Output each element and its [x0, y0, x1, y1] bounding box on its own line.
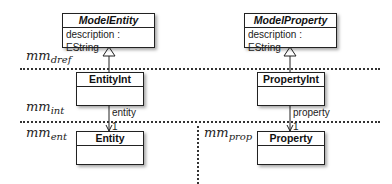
class-property[interactable]: Property	[257, 131, 325, 165]
role-label-entity: entity	[112, 107, 136, 118]
class-entity[interactable]: Entity	[76, 131, 144, 165]
multiplicity-entity: 1	[112, 121, 118, 132]
class-attribute: description : EString	[245, 28, 336, 54]
class-name: EntityInt	[77, 73, 143, 87]
class-name: PropertyInt	[258, 73, 324, 87]
class-name: Property	[258, 132, 324, 146]
class-name: ModelEntity	[63, 14, 154, 28]
layer-separator-int-ent	[20, 121, 380, 123]
class-attribute: description : EString	[63, 28, 154, 54]
class-name: Entity	[77, 132, 143, 146]
class-model-entity[interactable]: ModelEntity description : EString	[62, 13, 155, 48]
class-name: ModelProperty	[245, 14, 336, 28]
layer-separator-dref-int	[20, 68, 380, 70]
layer-label-ent: mment	[26, 125, 67, 142]
class-property-int[interactable]: PropertyInt	[257, 72, 325, 106]
role-label-property: property	[293, 107, 330, 118]
class-model-property[interactable]: ModelProperty description : EString	[244, 13, 337, 48]
layer-label-int: mmint	[26, 99, 64, 116]
layer-label-prop: mmprop	[204, 125, 252, 142]
multiplicity-property: 1	[293, 121, 299, 132]
layer-separator-ent-prop	[197, 126, 199, 184]
class-entity-int[interactable]: EntityInt	[76, 72, 144, 106]
